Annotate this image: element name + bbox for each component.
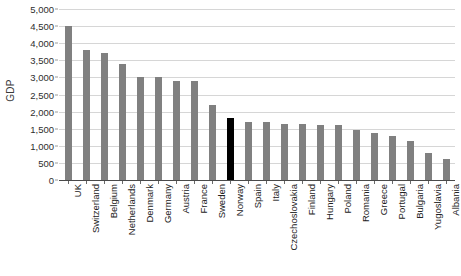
x-label-czechoslovakia: Czechoslovakia — [288, 184, 299, 251]
x-label-germany: Germany — [162, 184, 173, 223]
bar-norway — [227, 118, 234, 180]
y-tick-label: 1,000 — [30, 140, 54, 151]
bar-denmark — [137, 77, 144, 180]
x-label-austria: Austria — [180, 184, 191, 214]
x-label-norway: Norway — [234, 184, 245, 216]
y-tick-mark — [55, 9, 58, 10]
bar-switzerland — [83, 50, 90, 180]
y-tick-mark — [55, 43, 58, 44]
y-tick-label: 4,500 — [30, 21, 54, 32]
y-tick-label: 5,000 — [30, 4, 54, 15]
x-label-italy: Italy — [270, 184, 281, 201]
y-tick-mark — [55, 111, 58, 112]
y-tick-label: 0 — [49, 175, 54, 186]
y-tick-mark — [55, 60, 58, 61]
x-label-france: France — [198, 184, 209, 214]
gridline — [59, 26, 455, 27]
y-tick-label: 2,500 — [30, 89, 54, 100]
y-tick-label: 2,000 — [30, 106, 54, 117]
bar-romania — [353, 130, 360, 180]
bar-spain — [245, 122, 252, 180]
y-tick-mark — [55, 26, 58, 27]
y-tick-label: 500 — [38, 157, 54, 168]
x-label-sweden: Sweden — [216, 184, 227, 218]
bar-italy — [263, 122, 270, 180]
y-axis-tick-labels: 05001,0001,5002,0002,5003,0003,5004,0004… — [18, 0, 58, 181]
bar-france — [191, 81, 198, 180]
y-tick-label: 4,000 — [30, 38, 54, 49]
y-tick-mark — [55, 180, 58, 181]
bar-czechoslovakia — [281, 124, 288, 180]
bar-bulgaria — [407, 141, 414, 180]
bar-netherlands — [119, 64, 126, 180]
y-tick-label: 1,500 — [30, 123, 54, 134]
bar-finland — [299, 124, 306, 180]
y-axis-title: GDP — [2, 0, 18, 181]
bar-albania — [443, 159, 450, 180]
gridline — [59, 60, 455, 61]
bar-sweden — [209, 105, 216, 180]
y-tick-mark — [55, 77, 58, 78]
x-label-denmark: Denmark — [144, 184, 155, 223]
y-tick-label: 3,500 — [30, 55, 54, 66]
y-tick-label: 3,000 — [30, 72, 54, 83]
y-tick-mark — [55, 162, 58, 163]
x-label-greece: Greece — [378, 184, 389, 215]
x-label-romania: Romania — [360, 184, 371, 222]
bar-belgium — [101, 53, 108, 180]
bar-uk — [65, 26, 72, 180]
x-label-netherlands: Netherlands — [126, 184, 137, 235]
x-label-poland: Poland — [342, 184, 353, 214]
x-label-finland: Finland — [306, 184, 317, 215]
x-label-spain: Spain — [252, 184, 263, 208]
bar-poland — [335, 125, 342, 180]
y-tick-mark — [55, 94, 58, 95]
y-tick-mark — [55, 145, 58, 146]
bar-yugoslavia — [425, 153, 432, 180]
x-label-albania: Albania — [450, 184, 461, 216]
x-label-hungary: Hungary — [324, 184, 335, 220]
x-label-uk: UK — [72, 184, 83, 197]
bar-germany — [155, 77, 162, 180]
x-label-belgium: Belgium — [108, 184, 119, 218]
x-label-yugoslavia: Yugoslavia — [432, 184, 443, 230]
bar-portugal — [389, 136, 396, 180]
y-axis-title-text: GDP — [5, 79, 16, 102]
bar-greece — [371, 133, 378, 180]
x-label-switzerland: Switzerland — [90, 184, 101, 233]
x-axis-category-labels: UKSwitzerlandBelgiumNetherlandsDenmarkGe… — [59, 184, 455, 276]
y-tick-mark — [55, 128, 58, 129]
plot-area — [59, 0, 455, 181]
gridline — [59, 43, 455, 44]
x-label-bulgaria: Bulgaria — [414, 184, 425, 219]
gridline — [59, 9, 455, 10]
bar-austria — [173, 81, 180, 180]
x-label-portugal: Portugal — [396, 184, 407, 219]
bar-hungary — [317, 125, 324, 180]
